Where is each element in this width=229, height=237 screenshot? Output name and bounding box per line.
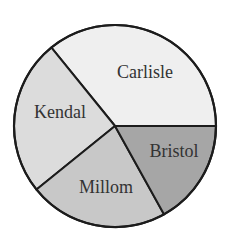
slice-label-kendal: Kendal <box>34 102 86 122</box>
slice-label-carlisle: Carlisle <box>117 62 173 82</box>
slice-label-bristol: Bristol <box>149 141 198 161</box>
pie-chart: Carlisle Kendal Millom Bristol <box>0 0 229 237</box>
slice-label-millom: Millom <box>79 177 133 197</box>
